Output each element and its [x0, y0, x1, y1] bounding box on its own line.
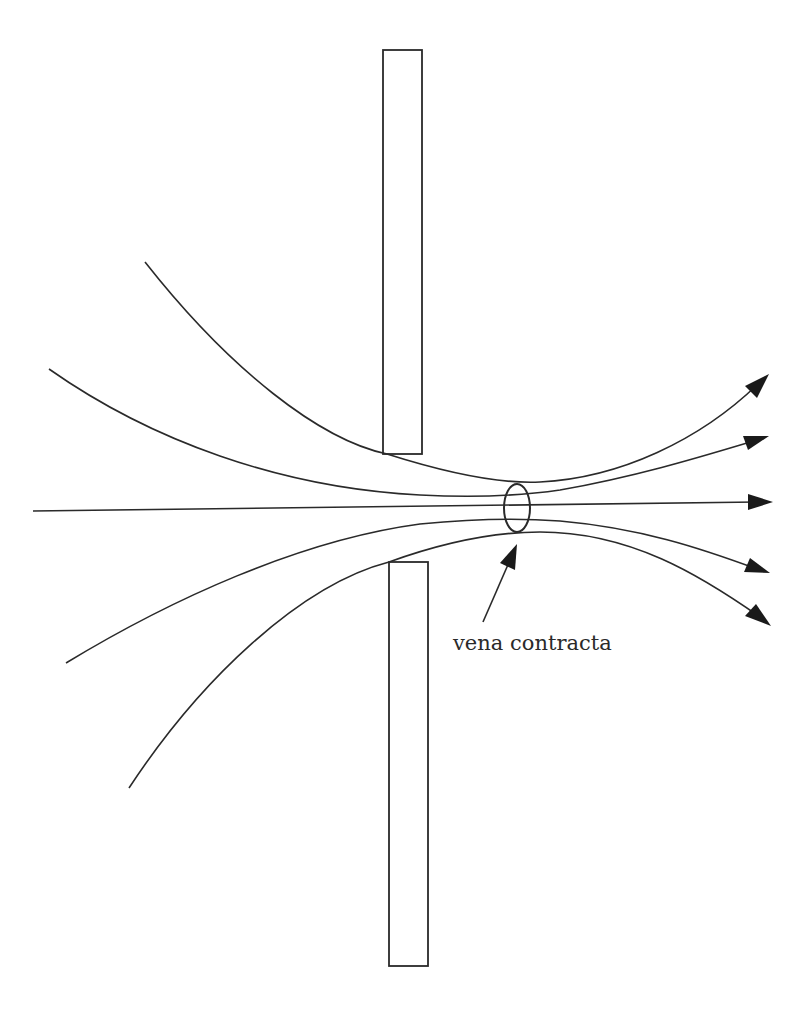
vena-contracta-diagram: vena contracta [0, 0, 812, 1010]
arrowhead-5 [745, 604, 771, 626]
label-pointer-line [483, 560, 510, 622]
arrowhead-center [748, 494, 773, 510]
streamline-1 [145, 262, 758, 482]
arrowhead-4 [744, 558, 770, 573]
arrowhead-1 [745, 374, 769, 398]
arrowhead-2 [743, 436, 769, 450]
lower-orifice-plate [389, 562, 428, 966]
vena-contracta-label: vena contracta [452, 631, 612, 655]
upper-orifice-plate [383, 50, 422, 454]
streamline-5 [129, 532, 760, 788]
vena-contracta-ellipse [504, 484, 530, 532]
label-pointer-arrowhead [500, 544, 517, 570]
streamline-center [33, 502, 757, 511]
